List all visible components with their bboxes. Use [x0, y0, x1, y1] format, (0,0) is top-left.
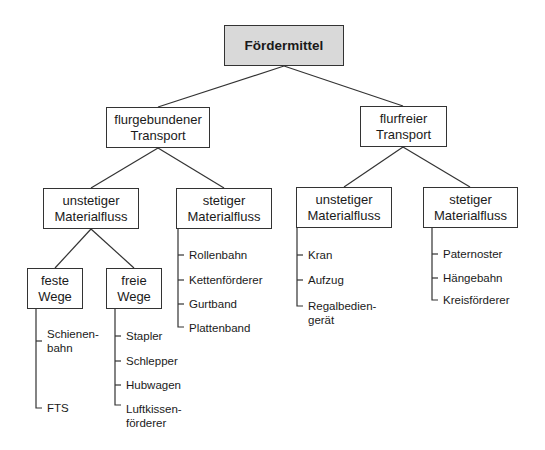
list-item: Kettenförderer	[189, 273, 263, 287]
root-node-foerdermittel: Fördermittel	[224, 25, 344, 66]
list-item: Kran	[308, 248, 332, 262]
list-item: Plattenband	[189, 321, 250, 335]
list-item: Schlepper	[126, 354, 178, 368]
list-item: Rollenbahn	[189, 248, 247, 262]
list-item: Aufzug	[308, 273, 344, 287]
node-feste-wege: feste Wege	[27, 268, 83, 309]
node-stetiger-materialfluss-flurgebunden: stetiger Materialfluss	[176, 188, 272, 229]
list-item: Hubwagen	[126, 378, 181, 392]
list-item: Kreisförderer	[443, 293, 509, 307]
node-unstetiger-materialfluss-flurgebunden: unstetiger Materialfluss	[43, 188, 139, 229]
node-freie-wege: freie Wege	[106, 268, 162, 309]
list-item: Luftkissen- förderer	[126, 402, 182, 430]
node-flurfreier-transport: flurfreier Transport	[360, 106, 447, 147]
list-item: FTS	[47, 401, 69, 415]
list-item: Stapler	[126, 329, 162, 343]
node-flurgebundener-transport: flurgebundener Transport	[106, 107, 210, 148]
list-item: Gurtband	[189, 297, 237, 311]
list-item: Paternoster	[443, 247, 502, 261]
node-unstetiger-materialfluss-flurfrei: unstetiger Materialfluss	[296, 187, 392, 228]
list-item: Schienen- bahn	[47, 327, 99, 355]
list-item: Regalbedien- gerät	[308, 299, 376, 327]
list-item: Hängebahn	[443, 271, 502, 285]
node-stetiger-materialfluss-flurfrei: stetiger Materialfluss	[423, 187, 518, 228]
